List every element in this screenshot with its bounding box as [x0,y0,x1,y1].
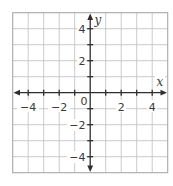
y-tick-labels: 4 2 −2 −4 [67,23,86,164]
coordinate-plane: −4 −2 2 4 0 4 2 −2 −4 x y [0,0,173,186]
x-tick-label: 2 [118,101,125,114]
y-axis-label: y [94,13,102,27]
x-tick-label: −4 [20,101,36,114]
y-axis-up-arrow-icon [87,14,93,21]
x-axis-right-arrow-icon [161,90,168,96]
x-axis-label: x [157,75,164,89]
x-axis-left-arrow-icon [14,90,21,96]
origin-label: 0 [81,95,88,108]
y-tick-label: 2 [79,55,86,68]
y-tick-label: −4 [69,151,85,164]
x-tick-label: −2 [51,101,67,114]
x-tick-label: 4 [149,101,156,114]
y-tick-label: −2 [69,119,85,132]
y-axis-down-arrow-icon [87,166,93,173]
y-tick-label: 4 [79,23,86,36]
